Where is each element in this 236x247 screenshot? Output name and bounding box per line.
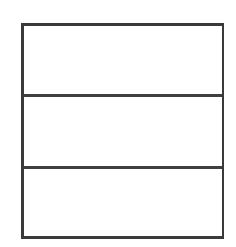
lower-divider-line	[24, 166, 222, 169]
middle-band	[24, 97, 222, 166]
figure-canvas	[0, 0, 236, 247]
upper-divider-line	[24, 94, 222, 97]
bottom-band	[24, 169, 222, 236]
rectangle-outline	[21, 23, 224, 239]
top-band	[24, 26, 222, 94]
